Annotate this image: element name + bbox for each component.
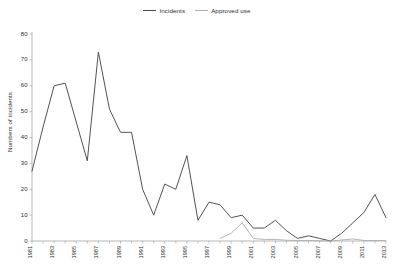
svg-text:1991: 1991 [138,246,144,258]
svg-text:1999: 1999 [226,246,232,258]
svg-text:30: 30 [21,160,28,166]
svg-text:1987: 1987 [93,246,99,258]
svg-text:2013: 2013 [381,246,387,258]
svg-text:2003: 2003 [270,246,276,258]
svg-text:2007: 2007 [315,246,321,258]
svg-text:2005: 2005 [293,246,299,258]
line-chart: Incidents Approved use Numbers of incide… [0,0,394,269]
svg-text:70: 70 [21,56,28,62]
svg-text:80: 80 [21,31,28,37]
svg-text:1985: 1985 [71,246,77,258]
svg-text:2001: 2001 [248,246,254,258]
svg-text:1989: 1989 [116,246,122,258]
svg-text:40: 40 [21,134,28,140]
svg-text:1993: 1993 [160,246,166,258]
series-lines [32,52,386,241]
svg-text:0: 0 [24,238,28,244]
svg-text:20: 20 [21,186,28,192]
svg-text:1983: 1983 [49,246,55,258]
y-axis-ticks: 01020304050607080 [21,31,32,244]
svg-text:1995: 1995 [182,246,188,258]
svg-text:60: 60 [21,82,28,88]
svg-text:50: 50 [21,108,28,114]
svg-text:2011: 2011 [359,246,365,258]
svg-text:10: 10 [21,212,28,218]
svg-text:1997: 1997 [204,246,210,258]
svg-text:2009: 2009 [337,246,343,258]
x-axis-ticks: 1981198319851987198919911993199519971999… [27,241,387,258]
svg-text:1981: 1981 [27,246,33,258]
plot-area: 01020304050607080 1981198319851987198919… [0,0,394,269]
